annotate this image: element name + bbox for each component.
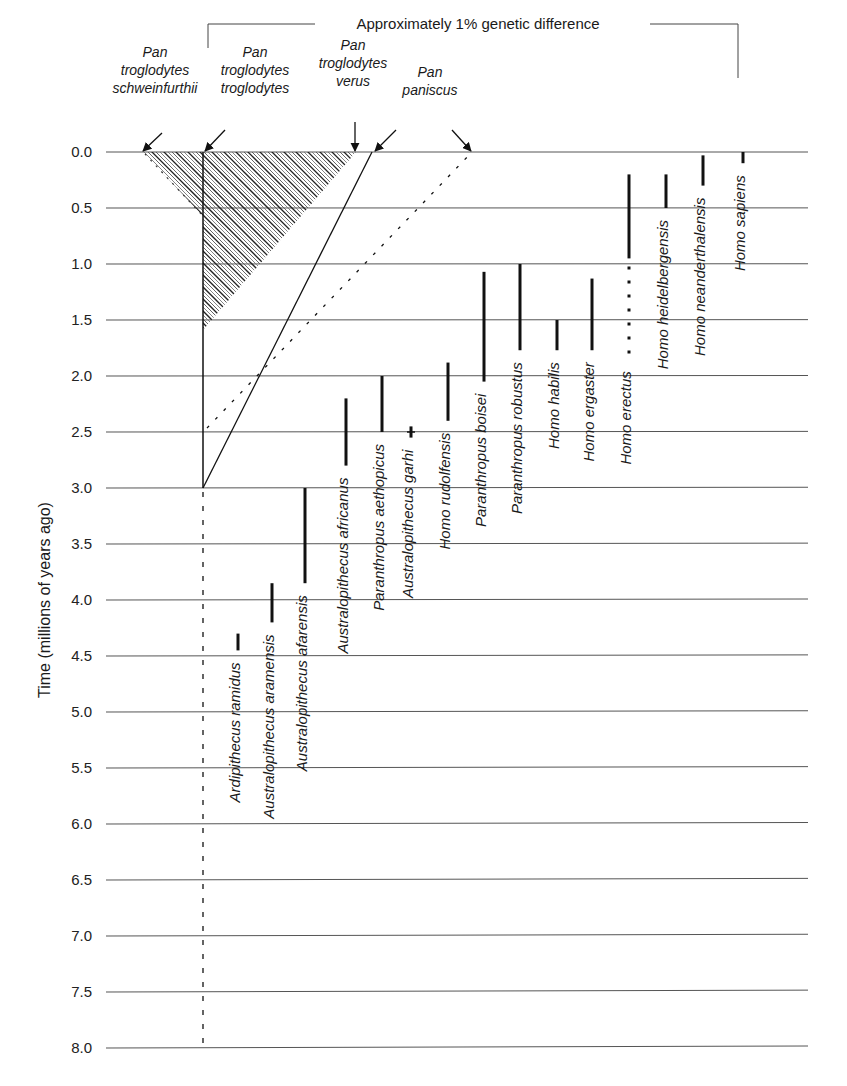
pan-label-line: schweinfurthii (113, 80, 199, 96)
species-label: Homo rudolfensis (436, 432, 453, 549)
y-tick-label: 4.5 (71, 647, 92, 664)
pan-label-line: verus (336, 73, 370, 89)
arrow-icon (205, 130, 225, 151)
hominin-range-bars: Ardipithecus ramidusAustralopithecus ara… (226, 152, 748, 820)
species-label: Australopithecus africanus (334, 477, 351, 654)
gridline (106, 1046, 808, 1048)
species-range: Paranthropus boisei (472, 272, 489, 527)
bracket-label: Approximately 1% genetic difference (356, 15, 599, 32)
y-tick-label: 3.0 (71, 479, 92, 496)
species-range: Homo sapiens (731, 152, 748, 271)
y-tick-label: 6.0 (71, 815, 92, 832)
species-label: Homo erectus (617, 371, 634, 465)
species-label: Homo sapiens (731, 175, 748, 271)
arrow-icon (375, 130, 396, 151)
pan-label-line: troglodytes (221, 62, 289, 78)
y-tick-label: 2.0 (71, 367, 92, 384)
species-range: Paranthropus robustus (508, 264, 525, 514)
species-label: Paranthropus robustus (508, 362, 525, 514)
species-range: Australopithecus garhi (399, 426, 416, 599)
y-tick-label: 2.5 (71, 423, 92, 440)
species-range: Australopithecus aramensis (260, 583, 277, 819)
pan-label-line: troglodytes (221, 80, 289, 96)
gridline (106, 376, 808, 377)
species-range: Homo habilis (545, 320, 562, 449)
species-label: Homo neanderthalensis (691, 197, 708, 356)
gridline (106, 711, 808, 712)
gridline (106, 655, 808, 656)
species-range: Homo rudolfensis (436, 363, 453, 550)
pan-species-labels: PantroglodytesschweinfurthiiPantroglodyt… (113, 37, 471, 151)
arrow-icon (452, 130, 471, 151)
gridline (106, 543, 808, 544)
gridline (106, 599, 808, 600)
species-range: Homo heidelbergensis (654, 174, 671, 369)
species-range: Australopithecus africanus (334, 398, 351, 654)
species-label: Homo ergaster (580, 361, 597, 461)
gridline (106, 823, 808, 825)
species-label: Australopithecus aramensis (260, 634, 277, 820)
species-label: Ardipithecus ramidus (226, 662, 243, 804)
species-range: Homo ergaster (580, 279, 597, 462)
pan-label-line: paniscus (401, 82, 457, 98)
pan-label-line: Pan (341, 37, 366, 53)
y-axis-label: Time (millions of years ago) (36, 502, 53, 698)
y-tick-label: 0.5 (71, 199, 92, 216)
y-tick-label: 7.5 (71, 983, 92, 1000)
pan-label-line: troglodytes (121, 62, 189, 78)
species-range: Ardipithecus ramidus (226, 634, 243, 804)
pan-label-line: Pan (143, 44, 168, 60)
species-label: Homo heidelbergensis (654, 220, 671, 370)
species-label: Paranthropus boisei (472, 393, 489, 527)
gridline (106, 767, 808, 768)
gridline (106, 431, 808, 432)
y-tick-label: 1.0 (71, 255, 92, 272)
species-range: Paranthropus aethopicus (370, 376, 387, 611)
gridline (106, 934, 808, 936)
y-tick-label: 6.5 (71, 871, 92, 888)
gridline (106, 487, 808, 488)
species-label: Homo habilis (545, 362, 562, 449)
species-range: Australopithecus afarensis (293, 488, 310, 772)
arrow-icon (143, 133, 162, 151)
y-tick-label: 1.5 (71, 311, 92, 328)
species-range: Homo neanderthalensis (691, 155, 708, 356)
pan-label-line: Pan (418, 64, 443, 80)
pan-label-line: troglodytes (319, 55, 387, 71)
species-label: Australopithecus garhi (399, 449, 416, 599)
y-tick-label: 3.5 (71, 535, 92, 552)
hominin-timeline-chart: 0.00.51.01.52.02.53.03.54.04.55.05.56.06… (0, 0, 847, 1086)
y-tick-label: 0.0 (71, 143, 92, 160)
y-tick-label: 4.0 (71, 591, 92, 608)
y-tick-label: 7.0 (71, 927, 92, 944)
species-label: Australopithecus afarensis (293, 595, 310, 772)
species-label: Paranthropus aethopicus (370, 444, 387, 611)
y-tick-label: 5.5 (71, 759, 92, 776)
y-axis-ticks: 0.00.51.01.52.02.53.03.54.04.55.05.56.06… (71, 143, 92, 1056)
gridline (106, 990, 808, 992)
y-tick-label: 8.0 (71, 1039, 92, 1056)
pan-label-line: Pan (243, 44, 268, 60)
gridline (106, 878, 808, 880)
pan-troglodytes-hatched-region (0, 140, 736, 340)
y-tick-label: 5.0 (71, 703, 92, 720)
